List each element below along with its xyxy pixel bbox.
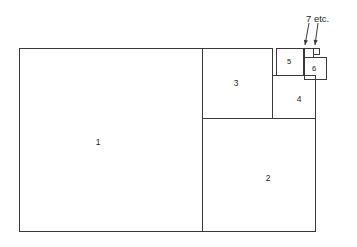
- square-1: [20, 49, 203, 232]
- square-label-5: 5: [287, 58, 291, 66]
- square-7: [305, 49, 314, 58]
- square-label-2: 2: [266, 174, 271, 183]
- arrows-group: [304, 23, 318, 45]
- squares-group: [20, 49, 327, 232]
- square-2: [203, 119, 316, 232]
- annotation-arrowhead-1: [304, 40, 308, 45]
- square-label-3: 3: [234, 79, 239, 88]
- square-label-6: 6: [312, 65, 316, 73]
- annotation-arrowhead-2: [314, 40, 318, 45]
- square-4: [273, 76, 316, 119]
- etc-annotation-label: 7 etc.: [306, 14, 329, 24]
- diagram-canvas: [0, 0, 357, 247]
- fibonacci-square-diagram: 123456 7 etc.: [0, 0, 357, 247]
- square-label-1: 1: [96, 138, 101, 147]
- square-8: [314, 49, 320, 55]
- square-label-4: 4: [297, 95, 302, 104]
